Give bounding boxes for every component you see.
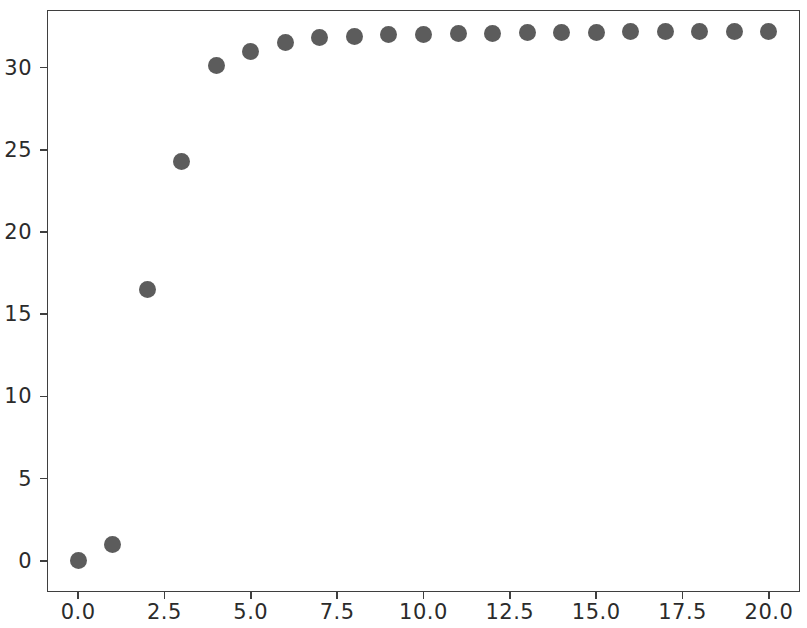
y-axis-tick-mark xyxy=(40,67,47,69)
x-axis-tick-label: 5.0 xyxy=(233,600,268,624)
x-axis-tick-mark xyxy=(682,592,684,599)
y-axis-tick-mark xyxy=(40,396,47,398)
x-axis-tick-mark xyxy=(595,592,597,599)
x-axis-tick-mark xyxy=(164,592,166,599)
y-axis-tick-label: 15 xyxy=(4,302,32,326)
y-axis-tick-mark xyxy=(40,231,47,233)
y-axis-tick-label: 5 xyxy=(18,467,32,491)
x-axis-tick-label: 20.0 xyxy=(745,600,794,624)
x-axis-tick-mark xyxy=(77,592,79,599)
x-axis-tick-label: 2.5 xyxy=(147,600,182,624)
y-axis-tick-mark xyxy=(40,149,47,151)
x-axis-tick-label: 7.5 xyxy=(320,600,355,624)
y-axis-tick-label: 20 xyxy=(4,220,32,244)
x-axis-tick-mark xyxy=(509,592,511,599)
y-axis-tick-mark xyxy=(40,478,47,480)
x-axis-tick-mark xyxy=(336,592,338,599)
x-axis-tick-label: 0.0 xyxy=(61,600,96,624)
y-axis-tick-mark xyxy=(40,313,47,315)
y-axis-tick-label: 10 xyxy=(4,384,32,408)
x-axis-tick-label: 10.0 xyxy=(399,600,448,624)
x-axis-tick-label: 15.0 xyxy=(572,600,621,624)
y-axis-tick-label: 25 xyxy=(4,138,32,162)
y-axis-tick-label: 30 xyxy=(4,56,32,80)
x-axis-tick-label: 17.5 xyxy=(658,600,707,624)
y-axis-tick-label: 0 xyxy=(18,549,32,573)
x-axis-tick-mark xyxy=(250,592,252,599)
figure-canvas: 051015202530 0.02.55.07.510.012.515.017.… xyxy=(0,0,807,628)
x-axis-tick-mark xyxy=(423,592,425,599)
x-axis-tick-mark xyxy=(768,592,770,599)
x-axis-tick-label: 12.5 xyxy=(485,600,534,624)
plot-axes-frame xyxy=(47,10,800,592)
y-axis-tick-mark xyxy=(40,560,47,562)
